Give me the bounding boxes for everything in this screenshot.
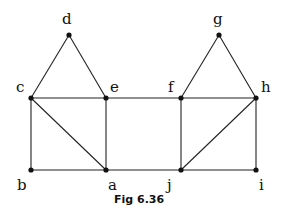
edge-c-d [31, 35, 69, 98]
vertex-label-d: d [62, 10, 72, 28]
vertex-c [28, 95, 33, 100]
vertex-label-i: i [259, 176, 264, 194]
edge-f-g [181, 35, 219, 98]
vertex-a [103, 167, 108, 172]
vertex-f [178, 95, 183, 100]
figure-caption: Fig 6.36 [114, 193, 164, 206]
vertex-label-j: j [165, 176, 172, 194]
vertex-j [178, 167, 183, 172]
vertex-e [103, 95, 108, 100]
vertex-b [28, 167, 33, 172]
edges [31, 35, 256, 170]
vertex-label-f: f [168, 78, 175, 96]
vertex-label-b: b [17, 176, 27, 194]
vertex-label-c: c [16, 78, 24, 96]
vertex-i [253, 167, 258, 172]
vertex-g [216, 32, 221, 37]
vertex-label-e: e [110, 78, 119, 96]
edge-d-e [69, 35, 106, 98]
vertex-d [66, 32, 71, 37]
nodes [28, 32, 258, 172]
vertex-label-a: a [108, 176, 117, 194]
node-labels: dcegfhbaji [16, 10, 271, 194]
graph-diagram: dcegfhbaji Fig 6.36 [0, 0, 282, 215]
vertex-label-h: h [261, 78, 271, 96]
edge-h-j [181, 98, 256, 170]
vertex-h [253, 95, 258, 100]
vertex-label-g: g [213, 10, 223, 28]
edge-g-h [219, 35, 256, 98]
edge-c-a [31, 98, 106, 170]
